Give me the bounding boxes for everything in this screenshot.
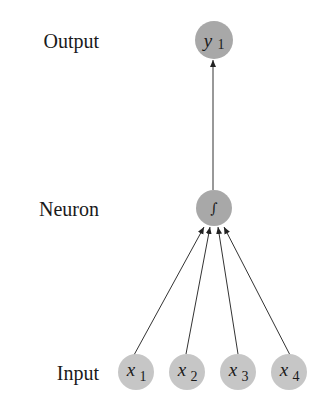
input-node-x4: x 4: [271, 354, 307, 390]
integral-icon: ∫: [210, 200, 217, 216]
neuron-diagram: Output Neuron Input y 1 ∫ x 1 x 2 x 3 x …: [0, 0, 329, 405]
edge-x1-neuron: [134, 227, 204, 355]
layer-label-output: Output: [43, 30, 99, 53]
layer-label-neuron: Neuron: [39, 198, 99, 220]
input-node-sub: 4: [293, 369, 300, 384]
input-node-x1: x 1: [118, 354, 154, 390]
input-node-sub: 1: [140, 369, 147, 384]
input-node-var: x: [279, 359, 289, 380]
input-node-x2: x 2: [169, 354, 205, 390]
output-node-sub: 1: [218, 37, 225, 52]
output-node-var: y: [202, 30, 213, 51]
input-node-x3: x 3: [220, 354, 256, 390]
neuron-node: ∫: [196, 190, 232, 226]
input-node-circle: [118, 354, 154, 390]
input-node-var: x: [177, 359, 187, 380]
input-node-sub: 2: [191, 369, 198, 384]
edge-x4-neuron: [224, 227, 290, 355]
output-node-circle: [195, 21, 233, 59]
input-node-circle: [220, 354, 256, 390]
input-node-var: x: [228, 359, 238, 380]
output-node-y1: y 1: [195, 21, 233, 59]
input-node-circle: [271, 354, 307, 390]
edge-x2-neuron: [186, 227, 210, 354]
input-node-sub: 3: [242, 369, 249, 384]
layer-label-input: Input: [57, 362, 100, 385]
edge-x3-neuron: [218, 227, 238, 354]
input-node-circle: [169, 354, 205, 390]
input-node-var: x: [126, 359, 136, 380]
